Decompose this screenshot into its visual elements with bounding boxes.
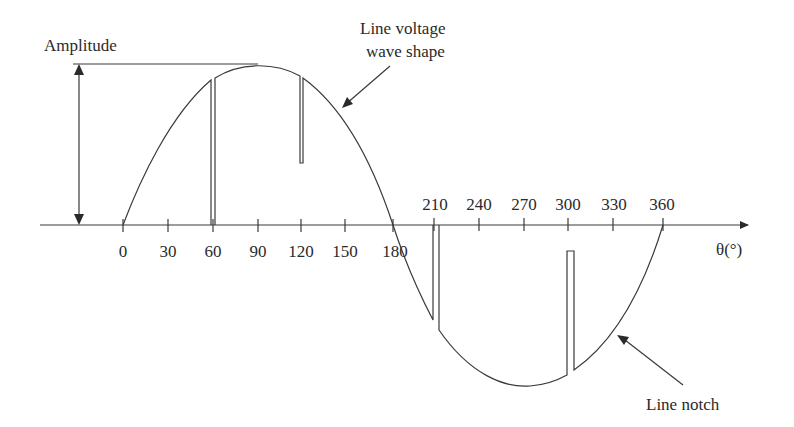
tick-label-150: 150 <box>332 243 358 261</box>
tick-label-90: 90 <box>250 243 267 261</box>
amplitude-arrow-head-up-icon <box>74 64 84 75</box>
tick-label-300: 300 <box>555 196 581 214</box>
tick-label-0: 0 <box>119 243 128 261</box>
tick-label-60: 60 <box>205 243 222 261</box>
line-notch-diagram <box>0 0 794 427</box>
tick-label-330: 330 <box>601 196 627 214</box>
line-notch-arrow-head-icon <box>617 335 629 345</box>
tick-label-270: 270 <box>511 196 537 214</box>
line-notch-label: Line notch <box>646 396 719 414</box>
wave-shape-label-line1: Line voltage <box>360 20 445 38</box>
tick-label-210: 210 <box>422 196 448 214</box>
amplitude-label: Amplitude <box>44 37 117 55</box>
tick-label-360: 360 <box>649 196 675 214</box>
line-voltage-waveform <box>123 66 663 386</box>
amplitude-arrow-head-down-icon <box>74 214 84 225</box>
wave-shape-arrow <box>346 66 390 104</box>
tick-label-240: 240 <box>466 196 492 214</box>
wave-shape-label-line2: wave shape <box>366 43 445 61</box>
tick-label-120: 120 <box>288 243 314 261</box>
x-axis-label: θ(°) <box>716 241 742 259</box>
tick-label-30: 30 <box>160 243 177 261</box>
tick-label-180: 180 <box>382 243 408 261</box>
line-notch-arrow <box>625 340 683 385</box>
